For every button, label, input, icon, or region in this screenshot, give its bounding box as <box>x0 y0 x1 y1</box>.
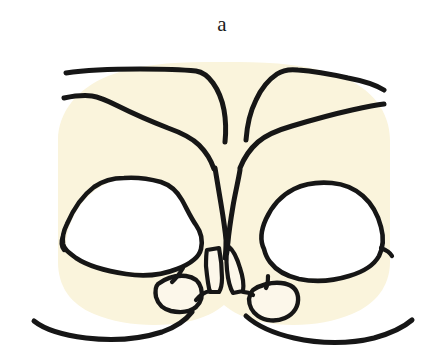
lateral-element-right-shape <box>249 283 298 321</box>
figure-container: a <box>0 0 444 363</box>
line-drawing-canvas <box>0 0 444 363</box>
left-cavity-edge-hook <box>62 236 64 250</box>
lateral-element-left-shape <box>155 276 201 312</box>
central-incisor-left-shape <box>206 248 222 292</box>
right-cavity-to-lateral-connector <box>266 276 268 288</box>
